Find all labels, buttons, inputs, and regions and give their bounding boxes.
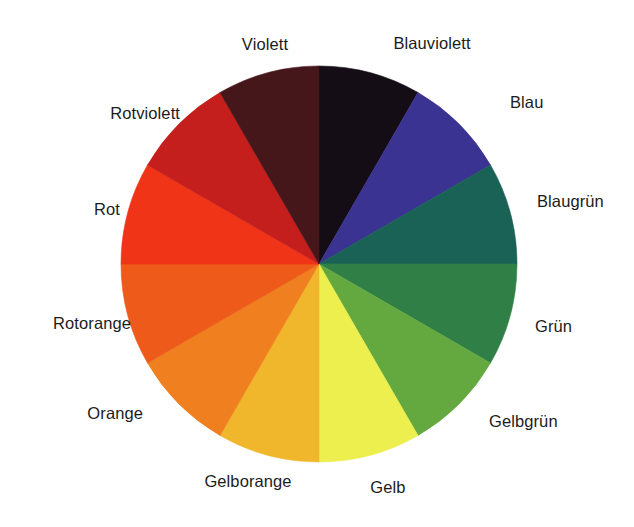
color-label-grün: Grün [535, 318, 572, 335]
color-wheel-figure: BlauviolettBlauBlaugrünGrünGelbgrünGelbG… [0, 0, 634, 527]
color-label-gelb: Gelb [370, 479, 405, 496]
color-label-blaugrün: Blaugrün [537, 193, 604, 210]
color-label-gelborange: Gelborange [204, 473, 291, 490]
color-label-gelbgrün: Gelbgrün [489, 413, 558, 430]
color-label-rot: Rot [94, 201, 120, 218]
color-wheel-slices [121, 66, 517, 462]
color-label-orange: Orange [87, 405, 143, 422]
color-wheel-svg [0, 0, 634, 527]
color-label-rotviolett: Rotviolett [110, 105, 180, 122]
color-label-blau: Blau [510, 94, 543, 111]
color-label-blauviolett: Blauviolett [393, 35, 470, 52]
color-label-rotorange: Rotorange [53, 315, 131, 332]
color-label-violett: Violett [242, 36, 288, 53]
